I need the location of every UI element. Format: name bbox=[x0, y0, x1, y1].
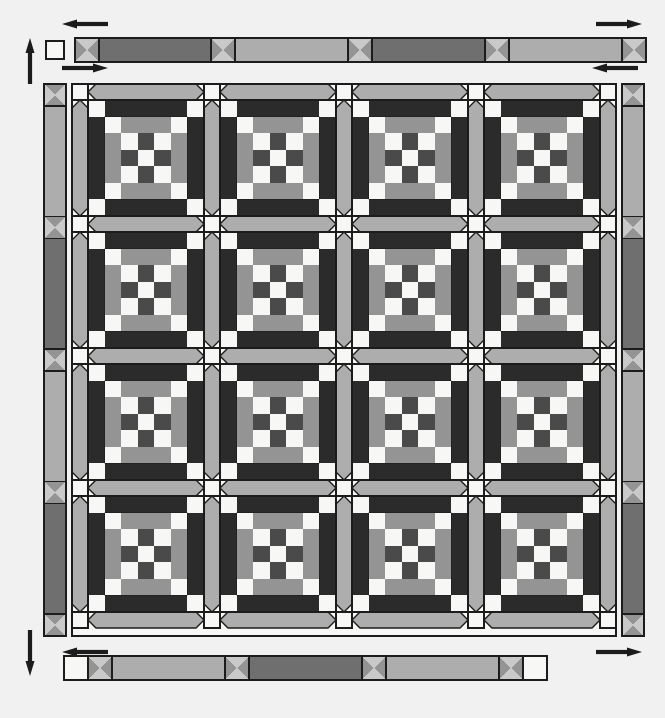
quilt-block-r3-c1-cell-5-1 bbox=[237, 579, 254, 596]
quilt-block-r2-c2-cell-0-1 bbox=[369, 364, 386, 381]
quilt-block-r0-c0-cell-4-5 bbox=[171, 166, 188, 183]
sashing-v-c0-r3 bbox=[72, 496, 88, 612]
sashing-v-c3-r1-body bbox=[468, 232, 484, 348]
quilt-block-r2-c2-cell-1-6 bbox=[451, 381, 468, 398]
quilt-grid-group bbox=[72, 84, 616, 636]
quilt-block-r3-c2-cell-5-3 bbox=[402, 579, 419, 596]
bottom-outer-border-strip bbox=[64, 656, 547, 680]
quilt-block-r3-c1-cell-2-0 bbox=[220, 529, 237, 546]
quilt-block-r3-c0-cell-2-4 bbox=[154, 529, 171, 546]
quilt-block-r0-c0-cell-5-1 bbox=[105, 183, 122, 200]
quilt-block-r1-c3-cell-0-5 bbox=[567, 232, 584, 249]
quilt-block-r3-c2-cell-4-2 bbox=[385, 562, 402, 579]
quilt-block-r1-c2-cell-0-6 bbox=[451, 232, 468, 249]
quilt-block-r3-c3-cell-2-6 bbox=[583, 529, 600, 546]
quilt-block-r2-c0-cell-6-4 bbox=[154, 463, 171, 480]
quilt-block-r2-c1-cell-0-1 bbox=[237, 364, 254, 381]
quilt-block-r1-c0-cell-6-0 bbox=[88, 331, 105, 348]
quilt-block-r1-c2-cell-1-5 bbox=[435, 249, 452, 266]
quilt-block-r1-c1-cell-3-2 bbox=[253, 282, 270, 299]
cornerstone-r4-c4 bbox=[600, 612, 616, 628]
quilt-block-r2-c1-cell-3-1 bbox=[237, 414, 254, 431]
quilt-block-r1-c1-cell-3-5 bbox=[303, 282, 320, 299]
quilt-block-r2-c2-cell-6-2 bbox=[385, 463, 402, 480]
quilt-block-r0-c1-cell-2-4 bbox=[286, 133, 303, 150]
quilt-block-r2-c2-cell-5-2 bbox=[385, 447, 402, 464]
quilt-block-r2-c0-cell-4-3 bbox=[138, 430, 155, 447]
quilt-block-r1-c1-cell-0-4 bbox=[286, 232, 303, 249]
quilt-block-r2-c3-cell-5-6 bbox=[583, 447, 600, 464]
quilt-block-r2-c3-cell-5-0 bbox=[484, 447, 501, 464]
quilt-block-r0-c2-cell-3-5 bbox=[435, 150, 452, 167]
quilt-block-r0-c0-cell-0-4 bbox=[154, 100, 171, 117]
quilt-block-r2-c1-cell-5-4 bbox=[286, 447, 303, 464]
quilt-block-r0-c2-cell-2-2 bbox=[385, 133, 402, 150]
quilt-block-r2-c3-cell-3-1 bbox=[501, 414, 518, 431]
sashing-v-c1-r3-body bbox=[204, 496, 220, 612]
arrow-top-right-outer-shaft bbox=[596, 22, 627, 26]
quilt-block-r3-c0-cell-6-4 bbox=[154, 595, 171, 612]
quilt-block-r1-c3-cell-5-5 bbox=[567, 315, 584, 332]
quilt-block-r2-c2-cell-3-6 bbox=[451, 414, 468, 431]
quilt-block-r1-c3 bbox=[484, 232, 600, 348]
quilt-block-r0-c2-cell-4-3 bbox=[402, 166, 419, 183]
quilt-block-r3-c2-cell-1-6 bbox=[451, 513, 468, 530]
quilt-block-r0-c0-cell-3-2 bbox=[121, 150, 138, 167]
quilt-block-r3-c3-cell-4-0 bbox=[484, 562, 501, 579]
quilt-block-r0-c1-cell-1-2 bbox=[253, 117, 270, 134]
quilt-block-r3-c3-cell-2-1 bbox=[501, 529, 518, 546]
quilt-block-r3-c0-cell-4-4 bbox=[154, 562, 171, 579]
quilt-block-r0-c1-cell-3-2 bbox=[253, 150, 270, 167]
quilt-block-r1-c1-cell-0-3 bbox=[270, 232, 287, 249]
quilt-block-r0-c3-cell-0-4 bbox=[550, 100, 567, 117]
quilt-block-r3-c1-cell-2-6 bbox=[319, 529, 336, 546]
quilt-block-r1-c1-cell-6-3 bbox=[270, 331, 287, 348]
quilt-block-r2-c2-cell-2-3 bbox=[402, 397, 419, 414]
quilt-block-r1-c0-cell-1-3 bbox=[138, 249, 155, 266]
quilt-block-r3-c2-cell-6-5 bbox=[435, 595, 452, 612]
quilt-block-r2-c0-cell-3-0 bbox=[88, 414, 105, 431]
right-inner-border-strip-seg-2 bbox=[622, 371, 644, 482]
quilt-block-r0-c3-cell-1-4 bbox=[550, 117, 567, 134]
quilt-block-r1-c2-cell-5-3 bbox=[402, 315, 419, 332]
quilt-block-r0-c1-cell-4-3 bbox=[270, 166, 287, 183]
quilt-block-r1-c3-cell-0-0 bbox=[484, 232, 501, 249]
quilt-block-r3-c3-cell-6-1 bbox=[501, 595, 518, 612]
quilt-block-r3-c0-cell-1-1 bbox=[105, 513, 122, 530]
quilt-block-r3-c1-cell-4-1 bbox=[237, 562, 254, 579]
quilt-block-r1-c0-cell-3-5 bbox=[171, 282, 188, 299]
quilt-block-r2-c0-cell-6-2 bbox=[121, 463, 138, 480]
sashing-h-r0-c2-body bbox=[352, 84, 468, 100]
left-inner-border-strip-tri-0 bbox=[44, 84, 66, 106]
quilt-block-r2-c1-cell-1-6 bbox=[319, 381, 336, 398]
quilt-block-r3-c2-cell-3-5 bbox=[435, 546, 452, 563]
sashing-v-c4-r0 bbox=[600, 100, 616, 216]
quilt-block-r1-c3-cell-6-2 bbox=[517, 331, 534, 348]
quilt-block-r1-c0-cell-6-3 bbox=[138, 331, 155, 348]
quilt-block-r1-c1-cell-6-1 bbox=[237, 331, 254, 348]
quilt-block-r1-c3-cell-2-4 bbox=[550, 265, 567, 282]
quilt-block-r3-c0-cell-4-0 bbox=[88, 562, 105, 579]
quilt-block-r3-c0-cell-2-6 bbox=[187, 529, 204, 546]
quilt-block-r1-c0-cell-5-0 bbox=[88, 315, 105, 332]
quilt-block-r2-c2-cell-4-1 bbox=[369, 430, 386, 447]
quilt-block-r0-c0-cell-3-5 bbox=[171, 150, 188, 167]
quilt-block-r2-c3-cell-0-5 bbox=[567, 364, 584, 381]
sashing-v-c0-r1 bbox=[72, 232, 88, 348]
cornerstone-r1-c2 bbox=[336, 216, 352, 232]
quilt-block-r0-c0-cell-2-6 bbox=[187, 133, 204, 150]
quilt-block-r0-c1-cell-6-4 bbox=[286, 199, 303, 216]
quilt-block-r3-c3-cell-6-4 bbox=[550, 595, 567, 612]
quilt-block-r1-c2-cell-5-6 bbox=[451, 315, 468, 332]
quilt-block-r0-c2-cell-1-6 bbox=[451, 117, 468, 134]
sashing-h-r4-c0-body bbox=[88, 612, 204, 628]
quilt-block-r2-c3-cell-4-3 bbox=[534, 430, 551, 447]
quilt-block-r2-c0-cell-6-1 bbox=[105, 463, 122, 480]
sashing-v-c2-r3 bbox=[336, 496, 352, 612]
quilt-block-r2-c3-cell-1-3 bbox=[534, 381, 551, 398]
quilt-block-r2-c3-cell-5-4 bbox=[550, 447, 567, 464]
quilt-block-r3-c0-cell-4-1 bbox=[105, 562, 122, 579]
quilt-block-r3-c2-cell-5-6 bbox=[451, 579, 468, 596]
quilt-block-r0-c3-cell-2-0 bbox=[484, 133, 501, 150]
sashing-v-c3-r3-body bbox=[468, 496, 484, 612]
